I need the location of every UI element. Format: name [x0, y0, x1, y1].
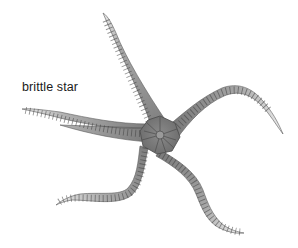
brittle-star-illustration	[0, 0, 298, 248]
arm-left	[22, 109, 150, 142]
mouth-center	[156, 131, 164, 139]
arm-top	[103, 13, 168, 128]
arm-right	[168, 86, 283, 140]
arm-bottom-right	[156, 150, 244, 233]
arm-bottom-left	[56, 146, 148, 205]
